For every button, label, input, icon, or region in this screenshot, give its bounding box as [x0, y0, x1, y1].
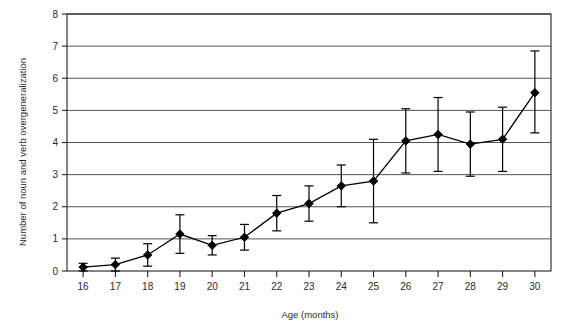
y-tick-label: 8: [52, 9, 58, 20]
x-tick-label: 27: [433, 281, 445, 292]
x-tick-label: 29: [497, 281, 509, 292]
x-tick-label: 23: [303, 281, 315, 292]
y-tick-label: 7: [52, 41, 58, 52]
x-tick-label: 18: [142, 281, 154, 292]
x-tick-label: 22: [271, 281, 283, 292]
x-tick-label: 28: [465, 281, 477, 292]
y-axis-title: Number of noun and verb overgeneralizati…: [17, 58, 28, 246]
x-tick-label: 21: [239, 281, 251, 292]
x-axis-tick-labels: 161718192021222324252627282930: [78, 281, 541, 292]
x-tick-label: 24: [336, 281, 348, 292]
x-tick-label: 20: [207, 281, 219, 292]
x-tick-label: 26: [400, 281, 412, 292]
x-axis-title: Age (months): [281, 309, 338, 320]
x-tick-label: 30: [529, 281, 541, 292]
x-tick-label: 16: [78, 281, 90, 292]
y-tick-label: 6: [52, 73, 58, 84]
x-tick-label: 19: [174, 281, 186, 292]
y-tick-label: 0: [52, 266, 58, 277]
y-tick-label: 2: [52, 201, 58, 212]
y-tick-label: 4: [52, 137, 58, 148]
y-tick-label: 5: [52, 105, 58, 116]
overgeneralization-line-chart: 012345678 161718192021222324252627282930…: [0, 0, 565, 333]
chart-figure: 012345678 161718192021222324252627282930…: [0, 0, 565, 333]
x-tick-label: 25: [368, 281, 380, 292]
y-tick-label: 1: [52, 233, 58, 244]
y-tick-label: 3: [52, 169, 58, 180]
y-axis-tick-labels: 012345678: [52, 9, 58, 277]
x-tick-label: 17: [110, 281, 122, 292]
